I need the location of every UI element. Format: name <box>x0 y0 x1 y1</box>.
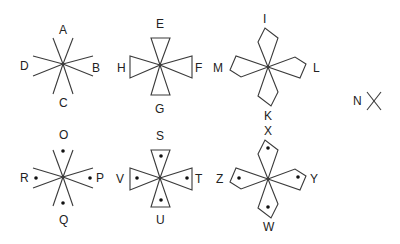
label-left: H <box>117 61 126 75</box>
figure-triangles-efgh: E F G H <box>117 17 202 116</box>
label-top: A <box>59 23 67 37</box>
label-right: F <box>195 61 202 75</box>
label-right: T <box>195 172 203 186</box>
label-left: Z <box>216 172 223 186</box>
label-top: S <box>156 129 164 143</box>
label-top: E <box>156 17 164 31</box>
label-bottom: Q <box>59 213 68 227</box>
label-left: D <box>20 59 29 73</box>
label-bottom: G <box>155 102 164 116</box>
label-bottom: U <box>156 213 165 227</box>
dot-markers <box>135 154 189 202</box>
triangle-shapes <box>130 38 192 95</box>
label-bottom: C <box>59 96 68 110</box>
label-right: B <box>92 61 100 75</box>
label-right: Y <box>310 172 318 186</box>
label-bottom: W <box>263 220 275 234</box>
label-left: R <box>20 171 29 185</box>
figure-kites-ilkm: I L K M <box>213 12 320 123</box>
open-wedge-lines <box>33 38 93 94</box>
label-top: O <box>59 128 68 142</box>
diagram-canvas: A B C D E F G H I L K M <box>0 0 400 244</box>
kite-shapes <box>230 28 306 106</box>
label-top: X <box>264 124 272 138</box>
open-wedge-lines <box>33 150 93 206</box>
label-right: L <box>313 61 320 75</box>
label-top: I <box>263 12 266 26</box>
figure-dotted-triangles-stuv: S T U V <box>116 129 203 227</box>
label-bottom: K <box>264 109 272 123</box>
label-left: V <box>116 172 124 186</box>
figure-cross-n: N <box>353 92 381 110</box>
label-right: P <box>96 171 104 185</box>
figure-dotted-wedges-opqr: O P Q R <box>20 128 104 227</box>
cross-lines <box>367 92 381 110</box>
figure-dotted-kites-xywz: X Y W Z <box>216 124 318 234</box>
label-left: N <box>353 94 362 108</box>
figure-open-wedges-abcd: A B C D <box>20 23 100 110</box>
label-left: M <box>213 61 223 75</box>
